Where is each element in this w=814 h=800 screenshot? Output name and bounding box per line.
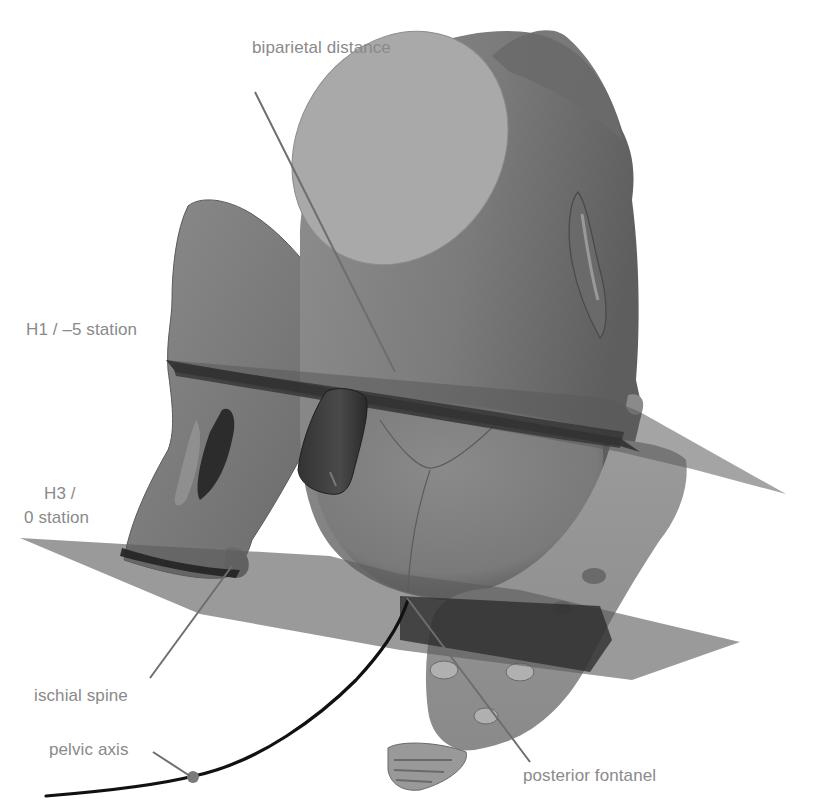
label-posterior-fontanel: posterior fontanel — [523, 766, 656, 786]
label-biparietal-distance: biparietal distance — [252, 38, 391, 58]
anatomy-illustration — [0, 0, 814, 800]
label-h1-station: H1 / –5 station — [26, 320, 137, 340]
label-pelvic-axis: pelvic axis — [49, 740, 129, 760]
label-h3-line1: H3 / — [44, 484, 76, 504]
pelvic-axis-dot — [187, 771, 199, 783]
label-h3-line2: 0 station — [24, 508, 89, 528]
label-ischial-spine: ischial spine — [34, 686, 128, 706]
pelvic-station-diagram: biparietal distance H1 / –5 station H3 /… — [0, 0, 814, 800]
pelvic-axis-leader — [153, 752, 190, 776]
